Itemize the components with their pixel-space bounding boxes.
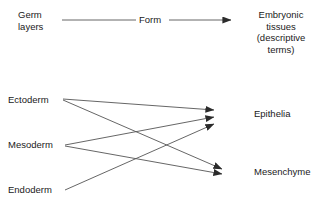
node-label-germ-layers: Germ layers bbox=[18, 9, 43, 32]
edge-endoderm-to-epithelia bbox=[65, 124, 214, 190]
node-label-ectoderm: Ectoderm bbox=[8, 94, 49, 106]
node-label-mesenchyme: Mesenchyme bbox=[254, 166, 311, 178]
edge-label-form: Form bbox=[139, 14, 161, 26]
germ-layer-tissue-diagram: Germ layers Form Embryonic tissues (desc… bbox=[0, 0, 326, 202]
node-label-embryonic-tissues: Embryonic tissues (descriptive terms) bbox=[243, 9, 319, 55]
node-label-mesoderm: Mesoderm bbox=[8, 139, 53, 151]
node-label-epithelia: Epithelia bbox=[254, 108, 290, 120]
edge-mesoderm-to-mesenchyme bbox=[65, 146, 222, 174]
edge-ectoderm-to-epithelia bbox=[63, 99, 214, 110]
edge-ectoderm-to-mesenchyme bbox=[63, 100, 222, 169]
edge-mesoderm-to-epithelia bbox=[65, 117, 214, 145]
node-label-endoderm: Endoderm bbox=[8, 184, 52, 196]
